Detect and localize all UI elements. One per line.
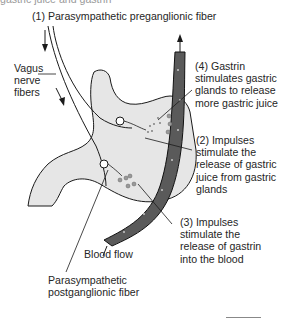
- label-impulses-gastric-juice: (2) Impulses stimulate the release of ga…: [196, 134, 277, 195]
- label-gastrin-stimulates: (4) Gastrin stimulates gastric glands to…: [195, 60, 278, 109]
- label-impulses-gastrin: (3) Impulses stimulate the release of ga…: [180, 216, 261, 265]
- label-vagus-nerve-fibers: Vagus nerve fibers: [14, 62, 43, 99]
- label-blood-flow: Blood flow: [84, 248, 133, 260]
- label-preganglionic-fiber: (1) Parasympathetic preganglionic fiber: [32, 10, 216, 22]
- label-postganglionic-fiber: Parasympathetic postganglionic fiber: [48, 274, 139, 298]
- divider-line: [226, 317, 261, 318]
